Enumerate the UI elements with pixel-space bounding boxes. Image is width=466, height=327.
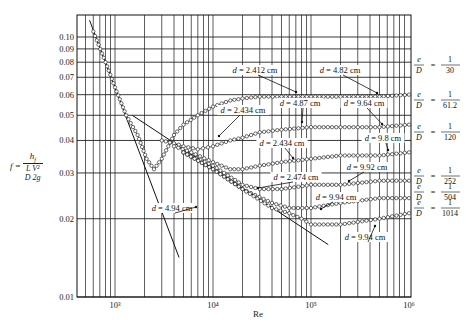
data-point bbox=[280, 187, 283, 190]
data-point bbox=[237, 168, 240, 171]
arrow-head-icon bbox=[376, 92, 378, 94]
roughness-e: e bbox=[417, 122, 421, 131]
data-point bbox=[275, 203, 278, 206]
data-point bbox=[296, 215, 299, 218]
data-point bbox=[399, 152, 402, 155]
data-point bbox=[172, 145, 175, 148]
arrow-head-icon bbox=[387, 149, 389, 151]
data-point bbox=[105, 65, 108, 68]
data-point bbox=[245, 96, 248, 99]
roughness-D: D bbox=[415, 101, 422, 110]
data-point bbox=[200, 161, 203, 164]
data-point bbox=[403, 196, 406, 199]
roughness-one: 1 bbox=[448, 182, 452, 191]
y-tick-label: 0.09 bbox=[59, 44, 74, 54]
x-tick-label: 10³ bbox=[109, 300, 121, 310]
ylabel-den-top: L V² bbox=[25, 164, 41, 173]
data-point bbox=[259, 199, 262, 202]
data-point bbox=[343, 222, 346, 225]
data-point bbox=[390, 196, 393, 199]
data-point bbox=[267, 163, 270, 166]
data-point bbox=[335, 183, 338, 186]
data-point bbox=[382, 216, 385, 219]
data-point bbox=[361, 220, 364, 223]
data-point bbox=[211, 145, 214, 148]
annotation-label: d = 4.94 cm bbox=[152, 203, 193, 213]
data-point bbox=[233, 168, 236, 171]
roughness-one: 1 bbox=[448, 198, 452, 207]
data-point bbox=[403, 123, 406, 126]
data-point bbox=[109, 73, 112, 76]
data-point bbox=[314, 157, 317, 160]
data-point bbox=[382, 179, 385, 182]
data-point bbox=[322, 183, 325, 186]
data-point bbox=[129, 121, 132, 124]
data-point bbox=[222, 175, 225, 178]
data-point bbox=[176, 130, 179, 133]
data-point bbox=[245, 135, 248, 138]
data-point bbox=[162, 153, 165, 156]
data-point bbox=[378, 196, 381, 199]
x-tick-label: 10⁴ bbox=[207, 300, 219, 310]
data-point bbox=[245, 167, 248, 170]
data-point bbox=[378, 126, 381, 129]
data-point bbox=[288, 127, 291, 130]
data-point bbox=[233, 98, 236, 101]
arrow-head-icon bbox=[301, 121, 303, 123]
annotation-label: d = 9.64 cm bbox=[344, 98, 385, 108]
roughness-denominator: 1014 bbox=[442, 209, 458, 218]
data-point bbox=[356, 220, 359, 223]
y-tick-label: 0.05 bbox=[59, 110, 74, 120]
data-point bbox=[226, 174, 229, 177]
annotation-label: d = 9.8 cm bbox=[365, 133, 402, 143]
data-point bbox=[309, 223, 312, 226]
data-point bbox=[211, 164, 214, 167]
data-point bbox=[386, 179, 389, 182]
data-point bbox=[352, 126, 355, 129]
data-point bbox=[386, 94, 389, 97]
data-point bbox=[374, 218, 377, 221]
data-point bbox=[335, 95, 338, 98]
data-point bbox=[275, 208, 278, 211]
data-point bbox=[216, 143, 219, 146]
data-point bbox=[356, 154, 359, 157]
data-point bbox=[182, 123, 185, 126]
y-tick-label: 0.03 bbox=[59, 168, 74, 178]
data-point bbox=[197, 159, 200, 162]
data-point bbox=[203, 157, 206, 160]
data-point bbox=[120, 102, 123, 105]
data-point bbox=[390, 179, 393, 182]
data-point bbox=[322, 223, 325, 226]
data-point bbox=[407, 196, 410, 199]
data-point bbox=[305, 220, 308, 223]
data-point bbox=[150, 164, 153, 167]
roughness-e: e bbox=[417, 90, 421, 99]
data-point bbox=[187, 146, 190, 149]
data-point bbox=[300, 217, 303, 220]
data-point bbox=[365, 219, 368, 222]
data-point bbox=[292, 127, 295, 130]
data-point bbox=[386, 153, 389, 156]
data-point bbox=[361, 181, 364, 184]
data-point bbox=[335, 126, 338, 129]
data-point bbox=[339, 154, 342, 157]
annotation-label: d = 2.474 cm bbox=[274, 172, 319, 182]
data-point bbox=[297, 185, 300, 188]
data-point bbox=[326, 183, 329, 186]
data-point bbox=[296, 206, 299, 209]
data-point bbox=[125, 114, 128, 117]
arrow-head-icon bbox=[381, 123, 383, 125]
data-point bbox=[145, 157, 148, 160]
ylabel-f: f = bbox=[10, 161, 21, 171]
data-point bbox=[399, 179, 402, 182]
annotation-label: d = 9.94 cm bbox=[316, 192, 357, 202]
roughness-eq: = bbox=[431, 188, 436, 197]
data-point bbox=[160, 157, 163, 160]
data-point bbox=[249, 185, 252, 188]
roughness-label: eD=130 bbox=[414, 55, 460, 75]
data-point bbox=[288, 206, 291, 209]
annotation-label: d = 4.82 cm bbox=[320, 65, 361, 75]
data-point bbox=[233, 178, 236, 181]
data-point bbox=[182, 151, 185, 154]
roughness-denominator: 30 bbox=[446, 66, 454, 75]
